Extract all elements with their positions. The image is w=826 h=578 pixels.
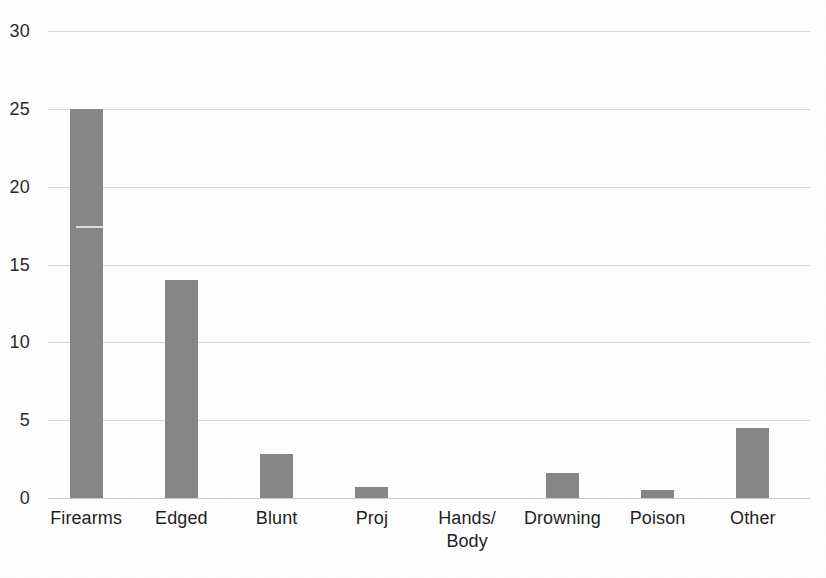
y-tick-label-5: 5 <box>0 411 30 429</box>
bar-chart: 302520151050 FirearmsEdgedBluntProjHands… <box>0 0 826 578</box>
plot-area <box>48 31 810 498</box>
y-tick-label-30: 30 <box>0 22 30 40</box>
bar <box>260 454 293 498</box>
gridline-25 <box>48 109 810 110</box>
scan-artifact-streak <box>76 226 110 228</box>
x-tick-label-line: Other <box>688 507 818 530</box>
x-tick-label: Other <box>688 507 818 530</box>
bar <box>641 490 674 498</box>
gridline-15 <box>48 265 810 266</box>
bar <box>355 487 388 498</box>
bar <box>736 428 769 498</box>
bar <box>546 473 579 498</box>
gridline-30 <box>48 31 810 32</box>
x-tick-label-line: Body <box>402 530 532 553</box>
gridline-10 <box>48 342 810 343</box>
bar <box>165 280 198 498</box>
bar <box>70 109 103 498</box>
y-tick-label-25: 25 <box>0 100 30 118</box>
gridline-5 <box>48 420 810 421</box>
gridline-20 <box>48 187 810 188</box>
y-tick-label-10: 10 <box>0 333 30 351</box>
y-tick-label-0: 0 <box>0 489 30 507</box>
y-tick-label-15: 15 <box>0 256 30 274</box>
y-tick-label-20: 20 <box>0 178 30 196</box>
gridline-0 <box>48 498 810 499</box>
